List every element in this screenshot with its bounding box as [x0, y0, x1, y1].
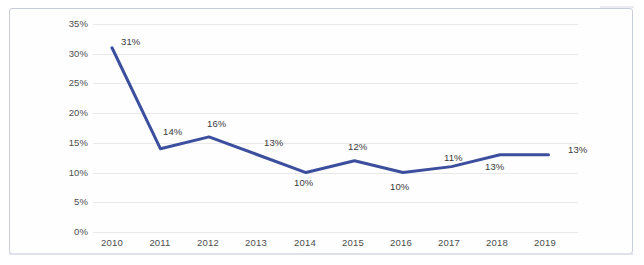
x-axis-label-2013: 2013 — [232, 237, 280, 248]
data-label-2016: 10% — [390, 181, 409, 192]
data-label-2018: 13% — [485, 161, 504, 172]
x-axis-label-2011: 2011 — [136, 237, 184, 248]
data-label-2014: 10% — [294, 177, 313, 188]
x-axis-label-2014: 2014 — [281, 237, 329, 248]
plot-area: 35% 30% 25% 20% 15% 10% 5% 0% — [0, 0, 644, 265]
x-axis-label-2010: 2010 — [88, 237, 136, 248]
x-axis-label-2019: 2019 — [521, 237, 569, 248]
data-label-2017: 11% — [444, 152, 463, 163]
chart-figure: 35% 30% 25% 20% 15% 10% 5% 0% — [0, 0, 644, 265]
data-label-2019: 13% — [568, 144, 587, 155]
line-series — [0, 0, 644, 265]
x-axis-label-2017: 2017 — [425, 237, 473, 248]
data-label-2013: 13% — [264, 137, 283, 148]
x-axis-label-2015: 2015 — [329, 237, 377, 248]
x-axis-label-2012: 2012 — [184, 237, 232, 248]
data-label-2010: 31% — [121, 36, 140, 47]
x-axis-label-2016: 2016 — [377, 237, 425, 248]
x-axis-label-2018: 2018 — [473, 237, 521, 248]
data-label-2011: 14% — [163, 126, 182, 137]
data-label-2015: 12% — [348, 141, 367, 152]
series-polyline — [112, 48, 549, 173]
data-label-2012: 16% — [207, 118, 226, 129]
